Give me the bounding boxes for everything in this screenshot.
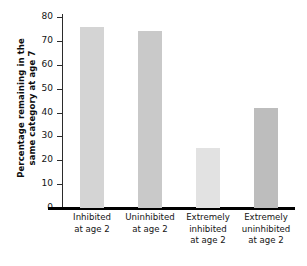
y-axis-tick-label: 50 (1, 84, 53, 93)
y-axis-tick-label: 0 (1, 203, 53, 212)
y-axis-tick-label: 60 (1, 60, 53, 69)
bars-container (63, 17, 295, 208)
x-axis-category-label: Extremely uninhibited at age 2 (229, 212, 303, 247)
bar (254, 108, 278, 208)
bar-chart: Percentage remaining in the same categor… (0, 0, 307, 266)
y-axis-tick-label: 30 (1, 131, 53, 140)
y-axis-tick-label: 70 (1, 36, 53, 45)
bar (138, 31, 162, 208)
x-axis-category-labels: Inhibited at age 2Uninhibited at age 2Ex… (63, 212, 295, 264)
bar (80, 27, 104, 208)
bar (196, 148, 220, 208)
y-axis-tick-label: 20 (1, 155, 53, 164)
y-axis-tick-label: 40 (1, 108, 53, 117)
y-axis-tick-label: 80 (1, 12, 53, 21)
y-axis-tick-label: 10 (1, 179, 53, 188)
